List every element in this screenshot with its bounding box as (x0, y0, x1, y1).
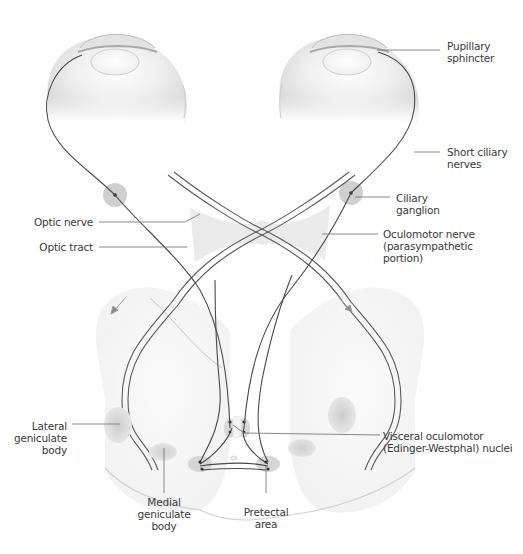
label-oculomotor-nerve: Oculomotor nerve (parasympathetic portio… (383, 228, 475, 264)
right-lateral-geniculate (328, 397, 356, 433)
left-lateral-geniculate (104, 407, 132, 443)
right-medial-geniculate (288, 439, 316, 457)
pupillary-reflex-diagram: Pupillary sphincter Short ciliary nerves… (0, 0, 523, 554)
label-short-ciliary-nerves: Short ciliary nerves (447, 146, 507, 170)
left-eyeball (48, 34, 187, 122)
left-medial-geniculate (149, 443, 177, 461)
label-pupillary-sphincter: Pupillary sphincter (447, 40, 494, 64)
right-eyeball (280, 34, 419, 122)
label-optic-tract: Optic tract (39, 241, 93, 253)
label-medial-geniculate-body: Medial geniculate body (134, 496, 194, 532)
label-visceral-oculomotor-nuclei: Visceral oculomotor (Edinger-Westphal) n… (383, 430, 512, 454)
label-pretectal-area: Pretectal area (236, 506, 296, 530)
diagram-canvas (0, 0, 523, 554)
label-optic-nerve: Optic nerve (34, 216, 93, 228)
midbrain-section (96, 288, 424, 520)
label-ciliary-ganglion: Ciliary ganglion (396, 192, 440, 216)
label-lateral-geniculate-body: Lateral geniculate body (14, 420, 67, 456)
